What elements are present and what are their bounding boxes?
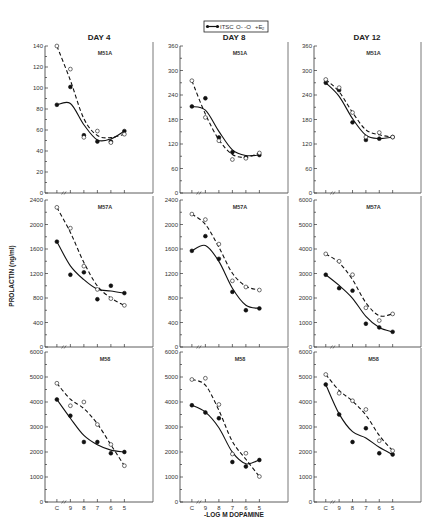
- y-tick-label: 300: [168, 68, 179, 74]
- open-circle-marker-icon: [391, 312, 395, 316]
- y-tick-label: 6000: [165, 349, 179, 355]
- filled-circle-marker-icon: [55, 398, 59, 402]
- y-tick-label: 120: [168, 141, 179, 147]
- y-tick-label: 360: [168, 43, 179, 49]
- x-axis-label: -LOG M DOPAMINE: [204, 511, 264, 518]
- y-tick-label: 0: [309, 499, 313, 505]
- open-circle-marker-icon: [337, 86, 341, 90]
- filled-circle-marker-icon: [337, 286, 341, 290]
- open-circle-marker-icon: [68, 226, 72, 230]
- e2-curve: [192, 380, 260, 477]
- filled-circle-marker-icon: [203, 96, 207, 100]
- open-circle-marker-icon: [351, 399, 355, 403]
- panel-m51a-day-12: 060120180240300360M51A: [302, 42, 421, 196]
- x-tick-label: 6: [109, 505, 113, 511]
- open-circle-marker-icon: [377, 131, 381, 135]
- open-circle-marker-icon: [203, 376, 207, 380]
- legend-filled-marker-icon: [206, 25, 209, 28]
- y-tick-label: 0: [175, 190, 179, 196]
- e2-curve: [192, 214, 260, 290]
- y-tick-label: 360: [302, 43, 313, 49]
- y-tick-label: 1000: [30, 474, 44, 480]
- itsc-curve: [192, 245, 260, 308]
- panel-m57a-day-8: 04008001200160020002400M57A: [165, 196, 288, 350]
- filled-circle-marker-icon: [95, 297, 99, 301]
- y-tick-label: 240: [168, 92, 179, 98]
- y-tick-label: 4000: [30, 399, 44, 405]
- open-circle-marker-icon: [55, 205, 59, 209]
- filled-circle-marker-icon: [337, 413, 341, 417]
- open-circle-marker-icon: [230, 279, 234, 283]
- open-circle-marker-icon: [217, 139, 221, 143]
- y-tick-label: 2000: [30, 222, 44, 228]
- itsc-curve: [326, 385, 393, 455]
- y-tick-label: 5000: [299, 374, 313, 380]
- open-circle-marker-icon: [391, 449, 395, 453]
- panel-m57a-day-12: 0100020003000400050006000M57A: [299, 196, 421, 350]
- filled-circle-marker-icon: [217, 416, 221, 420]
- open-circle-marker-icon: [109, 141, 113, 145]
- open-circle-marker-icon: [122, 464, 126, 468]
- y-tick-label: 40: [36, 148, 43, 154]
- panel-subtitle: M58: [235, 356, 246, 362]
- open-circle-marker-icon: [337, 259, 341, 263]
- panel-subtitle: M51A: [98, 50, 113, 56]
- y-tick-label: 6000: [299, 197, 313, 203]
- filled-circle-marker-icon: [230, 150, 234, 154]
- y-tick-label: 1200: [165, 271, 179, 277]
- y-tick-label: 800: [33, 295, 44, 301]
- open-circle-marker-icon: [230, 452, 234, 456]
- open-circle-marker-icon: [82, 264, 86, 268]
- open-circle-marker-icon: [95, 129, 99, 133]
- filled-circle-marker-icon: [244, 308, 248, 312]
- y-tick-label: 3000: [299, 271, 313, 277]
- open-circle-marker-icon: [95, 423, 99, 427]
- panel-subtitle: M51A: [366, 50, 381, 56]
- open-circle-marker-icon: [351, 273, 355, 277]
- open-circle-marker-icon: [55, 381, 59, 385]
- open-circle-marker-icon: [364, 135, 368, 139]
- x-tick-label: 6: [378, 505, 382, 511]
- filled-circle-marker-icon: [351, 289, 355, 293]
- filled-circle-marker-icon: [324, 383, 328, 387]
- filled-circle-marker-icon: [377, 451, 381, 455]
- y-tick-label: 3000: [30, 424, 44, 430]
- filled-circle-marker-icon: [190, 249, 194, 253]
- filled-circle-marker-icon: [351, 120, 355, 124]
- x-tick-label: 7: [364, 505, 368, 511]
- legend-filled-marker-icon: [216, 25, 219, 28]
- x-tick-label: 9: [69, 505, 73, 511]
- open-circle-marker-icon: [190, 378, 194, 382]
- y-tick-label: 4000: [299, 399, 313, 405]
- filled-circle-marker-icon: [82, 440, 86, 444]
- filled-circle-marker-icon: [190, 403, 194, 407]
- y-tick-label: 60: [36, 127, 43, 133]
- y-tick-label: 60: [171, 166, 178, 172]
- itsc-curve: [192, 106, 260, 155]
- filled-circle-marker-icon: [55, 240, 59, 244]
- filled-circle-marker-icon: [190, 105, 194, 109]
- e2-curve: [57, 46, 125, 138]
- open-circle-marker-icon: [244, 451, 248, 455]
- filled-circle-marker-icon: [230, 290, 234, 294]
- open-circle-marker-icon: [351, 111, 355, 115]
- filled-circle-marker-icon: [68, 414, 72, 418]
- e2-curve: [57, 207, 125, 305]
- panel-m51a-day-8: 060120180240300360M51A: [168, 42, 288, 196]
- open-circle-marker-icon: [55, 44, 59, 48]
- y-tick-label: 0: [40, 499, 44, 505]
- open-circle-marker-icon: [364, 408, 368, 412]
- y-tick-label: 2000: [299, 295, 313, 301]
- open-circle-marker-icon: [203, 116, 207, 120]
- y-tick-label: 2000: [165, 449, 179, 455]
- open-circle-marker-icon: [324, 78, 328, 82]
- filled-circle-marker-icon: [377, 137, 381, 141]
- panels: 020406080100120140M51A060120180240300360…: [30, 42, 421, 511]
- x-tick-label: 8: [351, 505, 355, 511]
- x-tick-label: 5: [391, 505, 395, 511]
- y-tick-label: 3000: [299, 424, 313, 430]
- open-circle-marker-icon: [82, 400, 86, 404]
- open-circle-marker-icon: [244, 285, 248, 289]
- filled-circle-marker-icon: [364, 426, 368, 430]
- y-tick-label: 5000: [299, 222, 313, 228]
